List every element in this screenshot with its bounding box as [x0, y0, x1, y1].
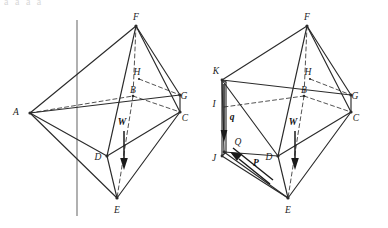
right-vertex-dots [221, 24, 353, 199]
left-panel: F H B A G C D E W [12, 12, 189, 216]
label-Q-right: Q [235, 137, 242, 147]
label-B-right: B [301, 85, 307, 95]
label-K-right: K [212, 66, 220, 76]
left-solid-edges [30, 26, 180, 198]
right-solid-edges [222, 26, 351, 198]
label-D-right: D [265, 152, 273, 162]
label-G-left: G [181, 91, 188, 101]
label-A-left: A [12, 107, 19, 117]
label-P-right: P [253, 158, 259, 168]
label-B-left: B [130, 85, 136, 95]
weight-vector-right [291, 131, 299, 170]
label-G-right: G [352, 91, 359, 101]
label-W-right: W [289, 117, 298, 127]
label-D-left: D [94, 152, 102, 162]
label-F-left: F [132, 12, 139, 22]
label-H-left: H [133, 67, 142, 77]
label-C-right: C [353, 113, 360, 123]
right-panel: F H B K I G C J Q D E W q P [211, 12, 359, 215]
left-vertex-dots [28, 24, 181, 199]
label-J-right: J [212, 153, 217, 163]
weight-vector-left [120, 131, 128, 170]
label-q-right: q [230, 112, 235, 122]
label-W-left: W [118, 117, 127, 127]
label-E-left: E [113, 205, 120, 215]
label-I-right: I [211, 99, 216, 109]
label-F-right: F [303, 12, 310, 22]
geometry-figure: a a a a [0, 0, 388, 228]
label-H-right: H [304, 67, 313, 77]
label-C-left: C [182, 113, 189, 123]
figure-canvas: F H B A G C D E W [0, 0, 388, 228]
label-E-right: E [284, 205, 291, 215]
